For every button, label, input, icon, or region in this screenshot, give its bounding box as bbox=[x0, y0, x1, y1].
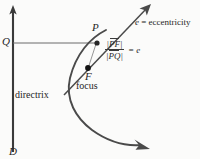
label-focus: focus bbox=[76, 81, 98, 91]
directrix-axis bbox=[9, 5, 16, 152]
label-q: Q bbox=[2, 36, 10, 47]
ratio-denominator: |PQ| bbox=[104, 50, 125, 61]
point-p-marker bbox=[94, 40, 99, 45]
pq-overline-segment: PQ bbox=[108, 50, 120, 61]
eccentricity-definition: = eccentricity bbox=[141, 17, 190, 27]
ratio-equals: = e bbox=[128, 45, 140, 55]
label-d: D bbox=[9, 146, 17, 157]
label-directrix: directrix bbox=[15, 90, 49, 100]
conic-focus-directrix-figure: Q D P F focus directrix e = eccentricity… bbox=[0, 0, 200, 159]
label-eccentricity: e = eccentricity bbox=[135, 18, 191, 27]
ratio-numerator: |PF| bbox=[105, 38, 125, 50]
label-p: P bbox=[92, 22, 99, 33]
pf-overline-segment: PF bbox=[109, 38, 120, 49]
ratio-fraction: |PF| |PQ| bbox=[104, 38, 125, 62]
eccentricity-variable: e bbox=[135, 17, 139, 27]
ratio-formula: |PF| |PQ| = e bbox=[104, 38, 140, 62]
